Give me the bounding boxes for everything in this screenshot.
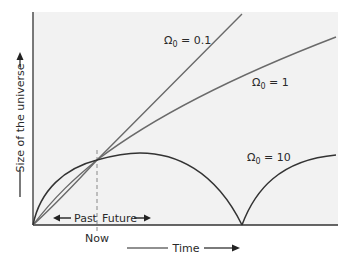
cosmic-scale-factor-diagram: Ω0 = 0.1 Ω0 = 1 Ω0 = 10 Past Future Now … [0, 0, 346, 260]
y-axis-label: Size of the universe [14, 63, 27, 172]
label-omega-0.1: Ω0 = 0.1 [164, 34, 211, 49]
future-label: Future [102, 212, 137, 225]
x-axis-label: Time [172, 242, 200, 255]
y-axis-title: Size of the universe [14, 52, 27, 197]
x-axis-title: Time [127, 242, 240, 255]
past-label: Past [74, 212, 98, 225]
now-label: Now [85, 232, 109, 245]
arrow-up-icon [17, 52, 24, 60]
label-omega-1: Ω0 = 1 [252, 76, 289, 91]
label-omega-10: Ω0 = 10 [247, 151, 291, 166]
arrow-right-icon [232, 245, 240, 252]
